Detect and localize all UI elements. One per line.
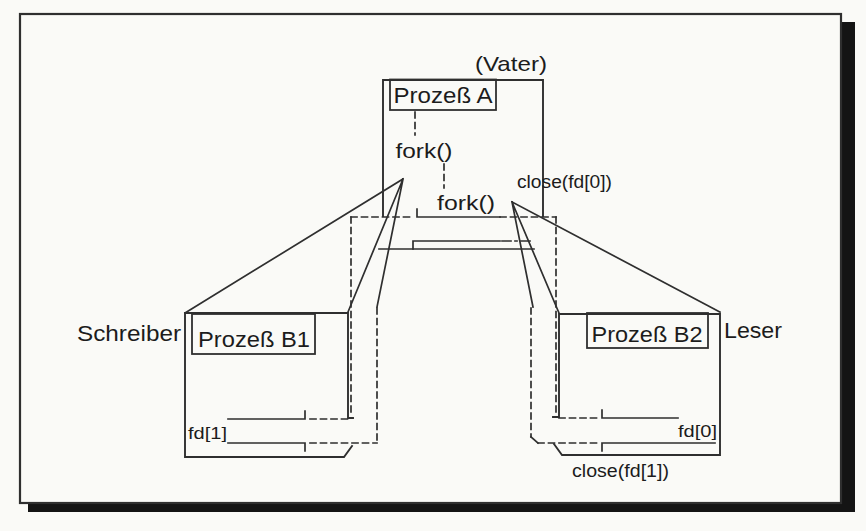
close-fd0-note: close(fd[0]) [517,172,612,192]
process-b1-title: Prozeß B1 [198,327,310,352]
pipe-fork-diagram: (Vater) Prozeß A fork() fork() close(fd[… [0,0,866,531]
reader-role-label: Leser [724,318,782,343]
b2-fd0-label: fd[0] [678,422,717,441]
fork-call-2-label: fork() [437,191,495,214]
fork-call-1-label: fork() [396,139,453,162]
process-b2-title: Prozeß B2 [592,322,703,347]
parent-role-note: (Vater) [475,52,547,75]
frame-shadow-right [841,22,855,512]
scanned-figure: (Vater) Prozeß A fork() fork() close(fd[… [0,0,866,531]
writer-role-label: Schreiber [77,321,181,346]
b1-fd1-label: fd[1] [188,424,227,443]
close-fd1-note: close(fd[1]) [572,461,669,481]
process-a-title: Prozeß A [394,83,493,108]
